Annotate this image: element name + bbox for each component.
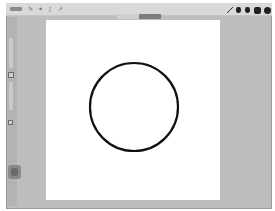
drawn-circle	[46, 20, 220, 200]
modify-button[interactable]	[8, 165, 21, 179]
magic-wand-icon[interactable]: ✦	[37, 6, 43, 13]
smudge-icon[interactable]	[236, 7, 241, 13]
redo-button[interactable]	[8, 120, 13, 125]
selection-icon[interactable]: ʃ	[47, 6, 53, 13]
eraser-icon[interactable]	[245, 7, 250, 13]
layers-icon[interactable]	[254, 7, 261, 14]
segmented-control	[117, 14, 161, 19]
drawing-canvas[interactable]	[46, 20, 220, 200]
transform-icon[interactable]: ➚	[57, 6, 63, 13]
color-icon[interactable]	[264, 7, 271, 14]
wrench-icon[interactable]: ✎	[27, 6, 33, 13]
gallery-button[interactable]: Gallery	[10, 7, 22, 11]
brush-size-slider[interactable]	[9, 38, 13, 68]
opacity-slider[interactable]	[9, 82, 13, 110]
undo-button[interactable]	[8, 72, 14, 78]
segment-option-2[interactable]	[139, 14, 161, 19]
brush-icon[interactable]	[226, 6, 234, 14]
segment-option-1[interactable]	[117, 14, 139, 19]
